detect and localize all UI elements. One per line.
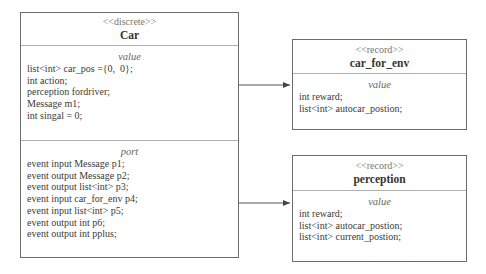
car-value-line: Message m1; [21, 98, 238, 110]
car-for-env-value-line: list<int> autocar_postion; [293, 103, 466, 115]
perception-value-section: value int reward; list<int> autocar_post… [293, 191, 466, 243]
perception-value-title: value [293, 196, 466, 208]
car-for-env-header: <<record>> car_for_env [293, 40, 466, 74]
car-for-env-block[interactable]: <<record>> car_for_env value int reward;… [292, 39, 467, 130]
perception-header: <<record>> perception [293, 156, 466, 191]
car-for-env-name: car_for_env [293, 56, 466, 70]
car-for-env-value-line: int reward; [293, 91, 466, 103]
car-port-line: event input Message p1; [21, 158, 238, 170]
car-name: Car [21, 28, 238, 42]
car-port-title: port [21, 146, 238, 158]
car-value-line: list<int> car_pos ={0, 0}; [21, 63, 238, 75]
car-value-section: value list<int> car_pos ={0, 0}; int act… [21, 46, 238, 140]
car-for-env-value-title: value [293, 79, 466, 91]
car-block[interactable]: <<discrete>> Car value list<int> car_pos… [20, 12, 239, 258]
perception-block[interactable]: <<record>> perception value int reward; … [292, 155, 467, 262]
perception-stereotype: <<record>> [293, 160, 466, 172]
car-value-line: int singal = 0; [21, 110, 238, 122]
car-for-env-stereotype: <<record>> [293, 44, 466, 56]
perception-value-line: list<int> current_postion; [293, 231, 466, 243]
perception-name: perception [293, 172, 466, 186]
car-port-line: event output Message p2; [21, 170, 238, 182]
perception-value-line: list<int> autocar_postion; [293, 220, 466, 232]
car-header: <<discrete>> Car [21, 13, 238, 46]
car-stereotype: <<discrete>> [21, 16, 238, 28]
car-port-line: event output list<int> p3; [21, 181, 238, 193]
car-value-line: int action; [21, 75, 238, 87]
car-value-line: perception fordriver; [21, 86, 238, 98]
car-value-title: value [21, 51, 238, 63]
car-port-line: event output int p6; [21, 217, 238, 229]
car-port-line: event output int pplus; [21, 228, 238, 240]
perception-value-line: int reward; [293, 208, 466, 220]
car-port-section: port event input Message p1; event outpu… [21, 140, 238, 240]
car-for-env-value-section: value int reward; list<int> autocar_post… [293, 74, 466, 114]
car-port-line: event input car_for_env p4; [21, 193, 238, 205]
car-port-line: event input list<int> p5; [21, 205, 238, 217]
